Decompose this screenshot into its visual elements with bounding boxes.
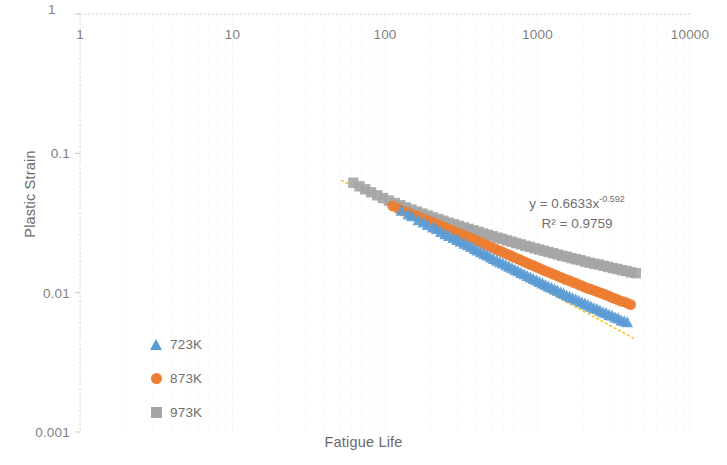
y-axis-title: Plastic Strain	[22, 134, 38, 254]
y-axis-top-corner-label: 1	[48, 2, 56, 17]
regression-equation: y = 0.6633x-0.592	[497, 189, 657, 214]
circle-icon	[148, 371, 164, 385]
equation-exponent: -0.592	[599, 194, 625, 204]
y-tick-0.01: 0.01	[0, 285, 70, 300]
legend-item-873K[interactable]: 873K	[148, 361, 202, 395]
legend-label-723K: 723K	[170, 337, 202, 352]
legend-label-973K: 973K	[170, 405, 202, 420]
legend-label-873K: 873K	[170, 371, 202, 386]
square-icon	[148, 405, 164, 419]
triangle-icon	[148, 337, 164, 351]
x-tick-1: 1	[76, 27, 84, 42]
x-axis-title: Fatigue Life	[0, 434, 727, 450]
r-squared-value: R² = 0.9759	[497, 214, 657, 234]
x-tick-10: 10	[225, 27, 240, 42]
x-tick-1000: 1000	[522, 27, 553, 42]
legend-item-973K[interactable]: 973K	[148, 395, 202, 429]
x-tick-10000: 10000	[671, 27, 710, 42]
regression-annotation: y = 0.6633x-0.592 R² = 0.9759	[497, 189, 657, 234]
x-tick-100: 100	[373, 27, 396, 42]
chart-legend: 723K 873K 973K	[148, 327, 202, 429]
equation-prefix: y = 0.6633x	[529, 196, 599, 211]
legend-item-723K[interactable]: 723K	[148, 327, 202, 361]
